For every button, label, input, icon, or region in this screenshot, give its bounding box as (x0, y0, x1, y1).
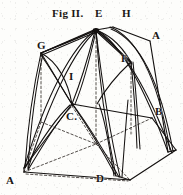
rib-E-to-front-pier-inner (96, 31, 120, 177)
vertex-label-E: E (95, 8, 103, 19)
rib-pier-front-right (122, 100, 128, 177)
impost-node-blot (71, 103, 75, 106)
vertex-label-I: I (69, 71, 73, 82)
rib-C-to-left-base-inner (28, 107, 71, 170)
hidden-base-diag-b (26, 174, 128, 181)
vertex-label-A-lower: A (6, 175, 14, 186)
edge-base-right (130, 150, 176, 180)
figure-plate: Fig II. E H A G F I B C. A D (0, 0, 183, 195)
rib-E-to-C (72, 31, 95, 104)
vertex-label-H: H (122, 8, 131, 19)
edge-H-to-A-upper (113, 27, 150, 41)
vertex-label-F: F (121, 53, 128, 64)
vertex-label-D: D (96, 173, 104, 184)
vertex-label-G: G (37, 40, 46, 51)
apex-node-blot (93, 28, 99, 32)
figure-title: Fig II. (52, 7, 83, 19)
rib-apex-fan-b (41, 30, 96, 53)
vertex-label-B: B (155, 106, 163, 117)
vault-ribs (24, 27, 173, 177)
vertex-label-A-upper: A (152, 30, 160, 41)
edge-C-to-right-top (72, 104, 152, 118)
vertex-label-C: C. (66, 111, 77, 122)
rib-E-to-G-inner (42, 32, 96, 55)
